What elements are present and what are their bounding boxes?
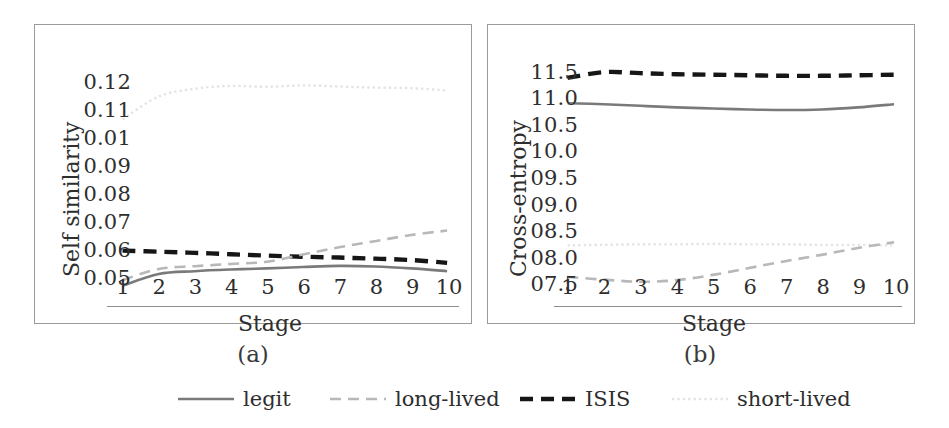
x-tick-label: 5: [261, 277, 274, 298]
y-tick-label: 0.08: [83, 184, 131, 205]
x-tick-label: 10: [436, 277, 463, 298]
legend-item-isis: ISIS: [520, 386, 630, 412]
legend-item-short-lived: short-lived: [672, 386, 851, 412]
x-tick-label: 9: [406, 277, 419, 298]
y-tick-label: 09.5: [530, 168, 578, 189]
x-tick-label: 9: [853, 277, 866, 298]
series-line-short-lived: [123, 85, 448, 119]
y-tick-label: 0.09: [83, 156, 131, 177]
y-tick-label: 08.5: [530, 221, 578, 242]
series-line-short-lived: [568, 244, 894, 246]
x-axis-label-b: Stage: [514, 311, 914, 336]
y-tick-label: 10.0: [530, 141, 578, 162]
panel-caption-a: (a): [237, 341, 269, 367]
series-line-ISIS: [568, 72, 894, 78]
chart-legend: legit long-lived ISIS short-lived: [0, 386, 949, 416]
legend-label-isis: ISIS: [585, 389, 630, 410]
x-tick-label: 6: [297, 277, 310, 298]
legend-item-legit: legit: [178, 386, 291, 412]
y-axis-label-b: Cross-entropy: [506, 120, 531, 277]
x-tick-label: 2: [153, 277, 166, 298]
y-tick-label: 0.06: [83, 240, 131, 261]
y-tick-label: 11.0: [530, 88, 578, 109]
x-axis-label-a: Stage: [65, 311, 475, 336]
x-tick-label: 7: [334, 277, 347, 298]
x-axis-line-b: [554, 306, 902, 307]
x-tick-label: 6: [744, 277, 757, 298]
legend-item-long-lived: long-lived: [330, 386, 500, 412]
chart-panel-b: 11.511.010.510.009.509.008.508.007.5 123…: [487, 24, 915, 324]
series-line-ISIS: [123, 251, 448, 263]
x-tick-label: 3: [189, 277, 202, 298]
y-tick-label: 0.07: [83, 212, 131, 233]
legend-swatch-isis: [520, 391, 576, 407]
x-tick-label: 4: [671, 277, 684, 298]
legend-swatch-long-lived: [330, 391, 386, 407]
legend-swatch-short-lived: [672, 391, 728, 407]
x-tick-label: 8: [816, 277, 829, 298]
y-tick-label: 08.0: [530, 248, 578, 269]
y-tick-label: 11.5: [530, 62, 578, 83]
legend-label-short-lived: short-lived: [737, 389, 851, 410]
y-tick-label: 0.12: [83, 72, 131, 93]
panel-caption-b: (b): [684, 341, 717, 367]
series-line-long-lived: [568, 242, 894, 282]
x-axis-line-a: [107, 306, 459, 307]
x-tick-label: 2: [598, 277, 611, 298]
chart-panel-a: 0.120.110.010.090.080.070.060.05 1234567…: [34, 24, 472, 324]
y-axis-label-a: Self similarity: [59, 122, 84, 277]
x-tick-label: 8: [370, 277, 383, 298]
y-tick-label: 0.01: [83, 128, 131, 149]
legend-label-legit: legit: [243, 389, 291, 410]
y-tick-label: 10.5: [530, 115, 578, 136]
x-tick-label: 3: [634, 277, 647, 298]
x-tick-label: 7: [780, 277, 793, 298]
y-tick-label: 09.0: [530, 195, 578, 216]
x-tick-label: 10: [883, 277, 910, 298]
y-tick-label: 0.11: [83, 100, 131, 121]
series-line-legit: [123, 266, 448, 286]
x-tick-label: 5: [707, 277, 720, 298]
x-tick-label: 1: [116, 277, 129, 298]
figure-root: 0.120.110.010.090.080.070.060.05 1234567…: [0, 0, 949, 428]
series-line-legit: [568, 103, 894, 110]
legend-swatch-legit: [178, 391, 234, 407]
x-tick-label: 4: [225, 277, 238, 298]
x-tick-label: 1: [561, 277, 574, 298]
legend-label-long-lived: long-lived: [395, 389, 500, 410]
